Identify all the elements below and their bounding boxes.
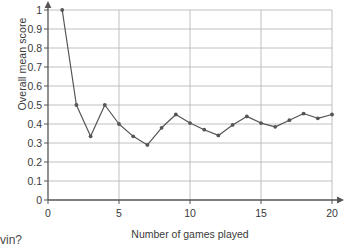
data-point-marker: [146, 143, 150, 147]
data-point-marker: [75, 103, 79, 107]
data-point-marker: [188, 121, 192, 125]
data-point-marker: [174, 113, 178, 117]
data-point-marker: [202, 128, 206, 132]
data-point-marker: [60, 8, 64, 12]
x-axis-tick-label: 5: [107, 208, 131, 219]
data-point-marker: [259, 121, 263, 125]
data-point-marker: [103, 103, 107, 107]
x-axis-arrow-icon: [337, 197, 344, 204]
x-axis-tick-label: 15: [249, 208, 273, 219]
x-axis-title: Number of games played: [48, 228, 332, 240]
data-point-marker: [131, 134, 135, 138]
data-point-marker: [330, 113, 334, 117]
data-point-marker: [302, 112, 306, 116]
data-series-line: [62, 10, 332, 145]
y-axis-arrow-icon: [45, 1, 52, 8]
chart-figure: Overall mean score 00.10.20.30.40.50.60.…: [0, 0, 346, 252]
data-point-marker: [117, 122, 121, 126]
data-point-marker: [273, 125, 277, 129]
data-point-marker: [245, 115, 249, 119]
data-point-marker: [89, 134, 93, 138]
data-point-marker: [231, 123, 235, 127]
x-axis-tick-label: 10: [178, 208, 202, 219]
x-axis-tick-label: 0: [36, 208, 60, 219]
x-axis-tick-label: 20: [320, 208, 344, 219]
data-point-marker: [288, 118, 292, 122]
data-point-marker: [217, 134, 221, 138]
data-point-marker: [160, 126, 164, 130]
caption-fragment: vin?: [0, 233, 22, 247]
data-point-marker: [316, 116, 320, 120]
